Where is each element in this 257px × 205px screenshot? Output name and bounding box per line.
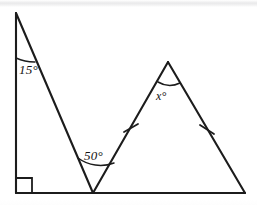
geometry-figure: 15° 50° x° (0, 0, 257, 205)
left-hypotenuse (16, 13, 93, 193)
angle-arc-x (158, 82, 180, 85)
angle-label-15: 15° (19, 62, 38, 78)
geometry-canvas (0, 0, 257, 205)
angle-label-50: 50° (84, 148, 103, 164)
angle-label-x: x° (156, 89, 167, 104)
scan-artifact-bottom (0, 200, 257, 205)
isosceles-right-side (168, 62, 245, 193)
right-angle-square-marker (17, 178, 32, 192)
